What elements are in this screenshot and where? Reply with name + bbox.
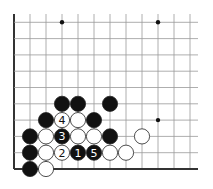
move-number-label: 2 [59, 147, 66, 160]
black-stone [86, 113, 101, 128]
white-stone [102, 145, 117, 160]
black-stone [102, 129, 117, 144]
move-number-label: 4 [59, 114, 66, 127]
white-stone [70, 113, 85, 128]
black-stone [38, 113, 53, 128]
move-number-label: 1 [75, 147, 82, 160]
star-point [156, 20, 160, 24]
black-stone: 3 [54, 129, 69, 144]
white-stone [134, 129, 149, 144]
white-stone [38, 145, 53, 160]
black-stone [22, 145, 37, 160]
black-stone [102, 96, 117, 111]
white-stone [118, 145, 133, 160]
board-grid [14, 14, 198, 169]
star-point [60, 20, 64, 24]
star-point [156, 118, 160, 122]
black-stone [70, 96, 85, 111]
white-stone: 2 [54, 145, 69, 160]
move-number-label: 5 [91, 147, 98, 160]
white-stone: 4 [54, 113, 69, 128]
black-stone: 5 [86, 145, 101, 160]
white-stone [38, 129, 53, 144]
white-stone [38, 161, 53, 176]
black-stone [54, 96, 69, 111]
go-board-diagram: 21534 [0, 0, 213, 189]
black-stone [22, 161, 37, 176]
black-stone [22, 129, 37, 144]
white-stone [86, 129, 101, 144]
move-number-label: 3 [59, 130, 66, 143]
black-stone: 1 [70, 145, 85, 160]
white-stone [70, 129, 85, 144]
